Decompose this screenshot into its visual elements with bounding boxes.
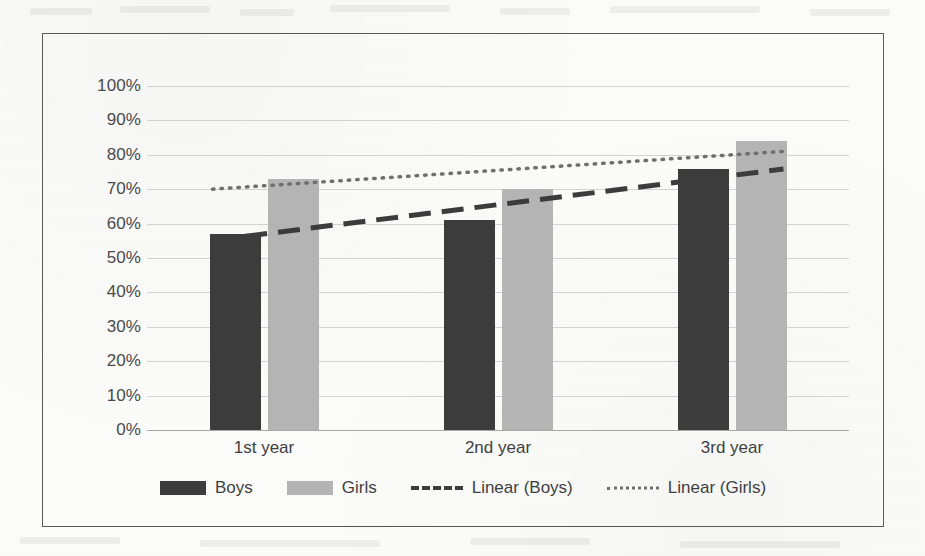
legend-item-girls[interactable]: Girls (287, 478, 377, 498)
legend-item-linear-girls[interactable]: Linear (Girls) (607, 478, 766, 498)
legend-item-linear-boys[interactable]: Linear (Boys) (411, 478, 573, 498)
legend-label: Boys (215, 478, 253, 498)
legend-dashed-line-icon (411, 481, 463, 495)
chart-frame: 100%90%80%70%60%50%40%30%20%10%0% 1st ye… (42, 33, 884, 527)
y-axis-tick-label: 0% (116, 420, 141, 440)
y-axis-tick-label: 10% (107, 386, 141, 406)
bleedthrough-mark (470, 538, 590, 545)
legend-label: Linear (Boys) (472, 478, 573, 498)
legend-label: Linear (Girls) (668, 478, 766, 498)
x-axis-category-labels: 1st year2nd year3rd year (147, 438, 849, 458)
plot-area: 100%90%80%70%60%50%40%30%20%10%0% (147, 86, 849, 430)
legend-item-boys[interactable]: Boys (160, 478, 253, 498)
bleedthrough-mark (500, 8, 570, 15)
y-axis-tick-label: 50% (107, 248, 141, 268)
bleedthrough-mark (610, 6, 760, 13)
bleedthrough-mark (810, 9, 890, 16)
y-axis-tick-label: 30% (107, 317, 141, 337)
y-axis-tick-label: 100% (97, 76, 141, 96)
bleedthrough-mark (30, 8, 92, 15)
x-axis-label-3rd-year: 3rd year (615, 438, 849, 458)
y-axis-tick-label: 80% (107, 145, 141, 165)
gridline (147, 430, 849, 431)
bleedthrough-mark (200, 540, 380, 547)
y-axis-tick-label: 60% (107, 214, 141, 234)
x-axis-label-2nd-year: 2nd year (381, 438, 615, 458)
bleedthrough-mark (240, 9, 294, 16)
trendline-linear-boys (213, 169, 784, 240)
bleedthrough-mark (330, 5, 450, 12)
legend-dotted-line-icon (607, 481, 659, 495)
bleedthrough-mark (120, 6, 210, 13)
legend-label: Girls (342, 478, 377, 498)
y-axis-tick-label: 70% (107, 179, 141, 199)
trendlines-group (147, 86, 849, 430)
bleedthrough-mark (680, 541, 840, 548)
y-axis-tick-label: 90% (107, 110, 141, 130)
y-axis-tick-label: 20% (107, 351, 141, 371)
legend-swatch-boys-icon (160, 481, 206, 495)
chart-legend: BoysGirlsLinear (Boys)Linear (Girls) (43, 478, 883, 498)
trendline-linear-girls (213, 151, 784, 189)
bleedthrough-mark (20, 537, 120, 544)
y-axis-tick-label: 40% (107, 282, 141, 302)
x-axis-label-1st-year: 1st year (147, 438, 381, 458)
legend-swatch-girls-icon (287, 481, 333, 495)
